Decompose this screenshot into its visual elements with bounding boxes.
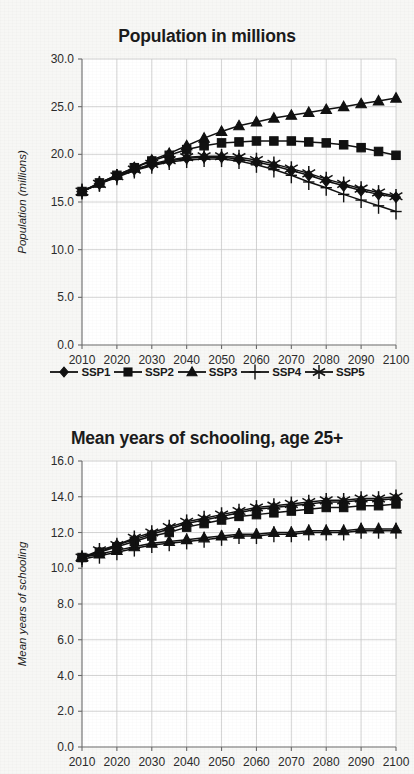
x-axis-ticks: 2010202020302040205020602070208020902100 [69,747,410,769]
y-tick-label: 25.0 [51,100,75,114]
y-tick-label: 10.0 [51,561,75,575]
schooling-chart-plot: 0.02.04.06.08.010.012.014.016.0201020202… [0,449,414,774]
legend-label: SSP5 [336,366,365,378]
x-tick-label: 2090 [348,755,375,769]
y-tick-label: 10.0 [51,243,75,257]
y-axis-ticks: 0.02.04.06.08.010.012.014.016.0 [51,454,82,754]
x-tick-label: 2050 [208,755,235,769]
plus-marker-icon [240,364,270,380]
plus-marker-icon [250,364,261,379]
y-tick-label: 0.0 [57,338,74,352]
y-tick-label: 6.0 [57,633,74,647]
x-tick-label: 2030 [138,755,165,769]
x-tick-label: 2020 [104,755,131,769]
legend-label: SSP3 [209,366,238,378]
square-marker-icon [217,139,225,147]
square-marker-icon [357,143,365,151]
square-marker-icon [392,151,400,159]
y-tick-label: 4.0 [57,669,74,683]
y-tick-label: 8.0 [57,597,74,611]
legend-item-ssp5[interactable]: SSP5 [304,364,365,380]
legend-label: SSP1 [81,366,110,378]
x-tick-label: 2010 [69,755,96,769]
triangle-marker-icon [177,364,207,380]
y-axis-title: Population (millions) [16,150,28,254]
y-tick-label: 2.0 [57,704,74,718]
square-marker-icon [124,368,132,376]
y-tick-label: 30.0 [51,52,75,66]
legend-item-ssp3[interactable]: SSP3 [177,364,238,380]
y-tick-label: 0.0 [57,740,74,754]
square-marker-icon [322,139,330,147]
y-axis-title: Mean years of schooling [16,541,28,666]
diamond-marker-icon [49,364,79,380]
legend-item-ssp1[interactable]: SSP1 [49,364,110,380]
x-tick-label: 2040 [173,755,200,769]
legend-label: SSP2 [145,366,174,378]
y-tick-label: 12.0 [51,526,75,540]
schooling-figure: Mean years of schooling, age 25+ 0.02.04… [0,394,414,774]
schooling-chart-title: Mean years of schooling, age 25+ [0,394,414,449]
x-tick-label: 2060 [243,755,270,769]
square-marker-icon [305,138,313,146]
square-marker-icon [374,147,382,155]
y-tick-label: 15.0 [51,195,75,209]
asterisk-marker-icon [304,364,334,380]
population-chart-plot: 0.05.010.015.020.025.030.020102020203020… [0,47,414,377]
y-tick-label: 16.0 [51,454,75,468]
y-axis-ticks: 0.05.010.015.020.025.030.0 [51,52,82,352]
square-marker-icon [339,141,347,149]
legend-item-ssp4[interactable]: SSP4 [240,364,301,380]
y-tick-label: 5.0 [57,290,74,304]
square-marker-icon [235,138,243,146]
ssp-legend: SSP1SSP2SSP3SSP4SSP5 [0,364,414,380]
x-tick-label: 2070 [278,755,305,769]
population-chart-title: Population in millions [0,0,414,47]
square-marker-icon [113,364,143,380]
legend-item-ssp2[interactable]: SSP2 [113,364,174,380]
x-tick-label: 2100 [383,755,410,769]
legend-label: SSP4 [272,366,301,378]
square-marker-icon [287,137,295,145]
diamond-marker-icon [60,367,68,377]
square-marker-icon [270,137,278,145]
x-tick-label: 2080 [313,755,340,769]
y-tick-label: 20.0 [51,147,75,161]
population-figure: Population in millions 0.05.010.015.020.… [0,0,414,394]
square-marker-icon [200,142,208,150]
square-marker-icon [252,137,260,145]
y-tick-label: 14.0 [51,490,75,504]
